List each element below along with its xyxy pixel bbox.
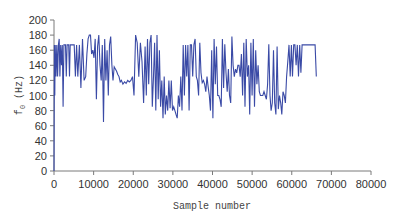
- x-tick-label: 50000: [237, 178, 268, 190]
- y-tick-label: 180: [29, 29, 47, 41]
- y-axis-title: f0 (Hz): [14, 75, 27, 115]
- y-tick-label: 80: [35, 105, 47, 117]
- y-axis-title-unit: (Hz): [14, 75, 25, 99]
- f0-series-line: [54, 35, 316, 171]
- x-tick-label: 0: [51, 178, 57, 190]
- x-tick-label: 40000: [197, 178, 228, 190]
- x-axis-title: Sample number: [173, 201, 251, 212]
- svg-text:f0 (Hz): f0 (Hz): [14, 75, 27, 115]
- y-tick-label: 100: [29, 90, 47, 102]
- y-tick-label: 60: [35, 120, 47, 132]
- y-tick-label: 140: [29, 59, 47, 71]
- y-tick-label: 20: [35, 150, 47, 162]
- y-tick-label: 160: [29, 44, 47, 56]
- y-tick-label: 0: [41, 165, 47, 177]
- f0-line-chart: 020406080100120140160180200 010000200003…: [0, 0, 399, 218]
- x-tick-label: 30000: [158, 178, 189, 190]
- x-tick-label: 70000: [316, 178, 347, 190]
- x-tick-label: 20000: [118, 178, 149, 190]
- x-tick-label: 80000: [356, 178, 387, 190]
- x-axis-ticks: 0100002000030000400005000060000700008000…: [51, 171, 386, 190]
- x-tick-label: 10000: [78, 178, 109, 190]
- y-axis-ticks: 020406080100120140160180200: [29, 14, 54, 177]
- y-tick-label: 200: [29, 14, 47, 26]
- y-tick-label: 40: [35, 135, 47, 147]
- y-tick-label: 120: [29, 74, 47, 86]
- x-tick-label: 60000: [276, 178, 307, 190]
